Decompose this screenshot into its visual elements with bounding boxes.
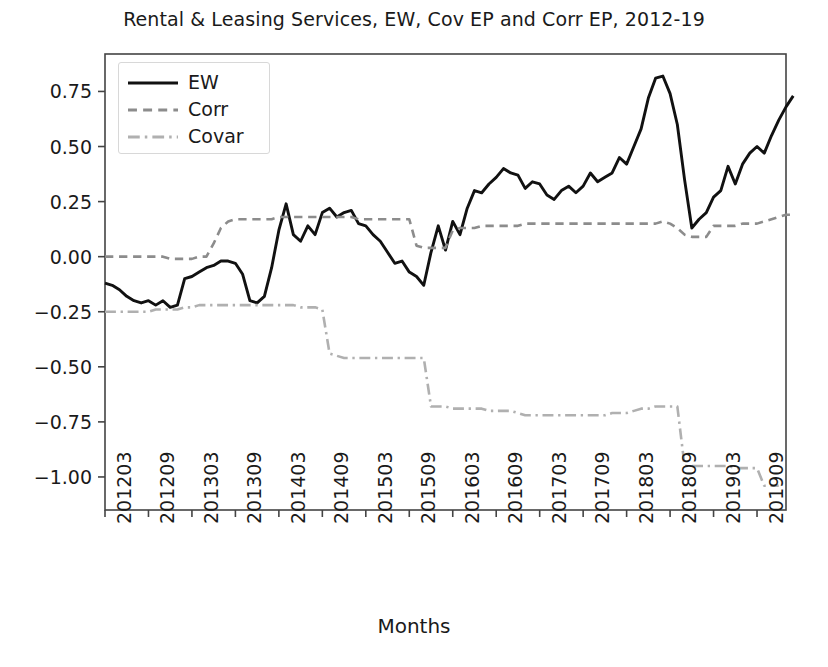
- legend-label: Covar: [188, 127, 244, 146]
- legend-swatch-ew: [127, 75, 179, 89]
- x-tick-label: 201203: [113, 451, 135, 524]
- x-tick-label: 201509: [417, 451, 439, 524]
- y-tick-label: −0.50: [34, 356, 92, 378]
- x-tick-label: 201703: [548, 451, 570, 524]
- legend-item-ew: EW: [127, 69, 219, 95]
- legend-swatch-covar: [127, 129, 179, 143]
- x-tick-label: 201903: [722, 451, 744, 524]
- x-tick-label: 201503: [374, 451, 396, 524]
- y-tick-label: 0.75: [50, 80, 92, 102]
- x-tick-label: 201909: [765, 451, 787, 524]
- x-tick-label: 201409: [330, 451, 352, 524]
- x-tick-label: 201603: [461, 451, 483, 524]
- legend-label: EW: [188, 73, 219, 92]
- legend-swatch-corr: [127, 102, 179, 116]
- y-tick-label: 0.25: [50, 191, 92, 213]
- x-tick-label: 201609: [504, 451, 526, 524]
- x-tick-label: 201209: [156, 451, 178, 524]
- y-tick-label: 0.50: [50, 136, 92, 158]
- x-tick-label: 201709: [591, 451, 613, 524]
- x-axis-label: Months: [0, 614, 828, 638]
- x-tick-label: 201403: [287, 451, 309, 524]
- legend-item-covar: Covar: [127, 123, 244, 149]
- y-tick-label: −0.25: [34, 301, 92, 323]
- y-tick-label: −1.00: [34, 466, 92, 488]
- chart-figure: Rental & Leasing Services, EW, Cov EP an…: [0, 0, 828, 667]
- x-tick-label: 201309: [243, 451, 265, 524]
- legend-item-corr: Corr: [127, 96, 228, 122]
- chart-legend: EWCorrCovar: [118, 62, 270, 154]
- legend-label: Corr: [188, 100, 228, 119]
- y-tick-label: −0.75: [34, 411, 92, 433]
- x-tick-label: 201303: [200, 451, 222, 524]
- x-tick-label: 201803: [635, 451, 657, 524]
- y-tick-label: 0.00: [50, 246, 92, 268]
- x-tick-label: 201809: [678, 451, 700, 524]
